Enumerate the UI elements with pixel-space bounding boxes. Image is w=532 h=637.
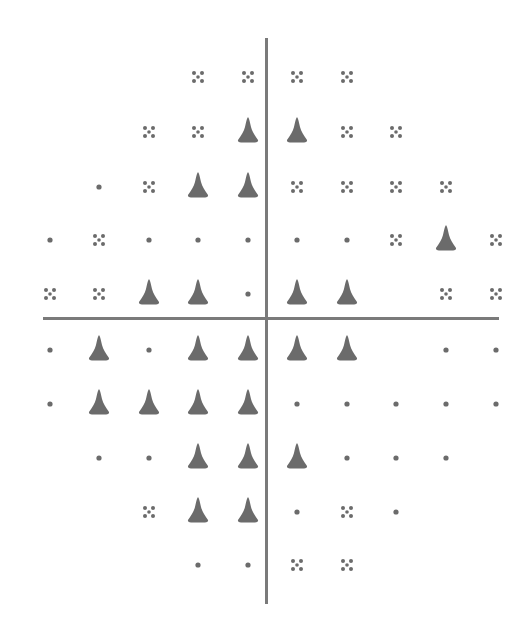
triangle-icon	[236, 334, 260, 362]
dot-icon	[137, 444, 161, 472]
triangle-icon	[236, 496, 260, 524]
vertical-meridian-axis	[265, 38, 268, 604]
cross-icon	[87, 226, 111, 254]
triangle-icon	[236, 116, 260, 144]
cross-icon	[137, 173, 161, 201]
dot-icon	[38, 226, 62, 254]
triangle-icon	[434, 224, 458, 252]
dot-icon	[186, 226, 210, 254]
dot-icon	[335, 226, 359, 254]
horizontal-meridian-axis	[43, 317, 499, 320]
dot-icon	[384, 390, 408, 418]
cross-icon	[384, 226, 408, 254]
cross-icon	[335, 118, 359, 146]
cross-icon	[137, 498, 161, 526]
triangle-icon	[236, 442, 260, 470]
cross-icon	[335, 63, 359, 91]
triangle-icon	[186, 388, 210, 416]
cross-icon	[285, 173, 309, 201]
dot-icon	[38, 390, 62, 418]
triangle-icon	[186, 442, 210, 470]
cross-icon	[335, 498, 359, 526]
triangle-icon	[137, 278, 161, 306]
cross-icon	[236, 63, 260, 91]
dot-icon	[434, 444, 458, 472]
dot-icon	[384, 444, 408, 472]
dot-icon	[236, 551, 260, 579]
cross-icon	[384, 173, 408, 201]
triangle-icon	[285, 442, 309, 470]
cross-icon	[186, 118, 210, 146]
cross-icon	[484, 226, 508, 254]
triangle-icon	[186, 278, 210, 306]
cross-icon	[285, 63, 309, 91]
dot-icon	[484, 390, 508, 418]
dot-icon	[137, 336, 161, 364]
dot-icon	[236, 226, 260, 254]
cross-icon	[484, 280, 508, 308]
cross-icon	[38, 280, 62, 308]
dot-icon	[384, 498, 408, 526]
triangle-icon	[236, 388, 260, 416]
dot-icon	[285, 498, 309, 526]
dot-icon	[484, 336, 508, 364]
dot-icon	[38, 336, 62, 364]
cross-icon	[285, 551, 309, 579]
dot-icon	[335, 390, 359, 418]
triangle-icon	[87, 334, 111, 362]
dot-icon	[87, 173, 111, 201]
triangle-icon	[285, 334, 309, 362]
triangle-icon	[236, 171, 260, 199]
cross-icon	[137, 118, 161, 146]
triangle-icon	[335, 334, 359, 362]
triangle-icon	[137, 388, 161, 416]
cross-icon	[384, 118, 408, 146]
dot-icon	[335, 444, 359, 472]
dot-icon	[285, 390, 309, 418]
dot-icon	[434, 336, 458, 364]
cross-icon	[434, 173, 458, 201]
dot-icon	[236, 280, 260, 308]
dot-icon	[285, 226, 309, 254]
triangle-icon	[186, 171, 210, 199]
triangle-icon	[186, 334, 210, 362]
dot-icon	[434, 390, 458, 418]
cross-icon	[434, 280, 458, 308]
cross-icon	[186, 63, 210, 91]
triangle-icon	[87, 388, 111, 416]
triangle-icon	[335, 278, 359, 306]
cross-icon	[335, 551, 359, 579]
triangle-icon	[285, 116, 309, 144]
visual-field-plot	[0, 0, 532, 637]
dot-icon	[137, 226, 161, 254]
dot-icon	[87, 444, 111, 472]
triangle-icon	[186, 496, 210, 524]
cross-icon	[335, 173, 359, 201]
cross-icon	[87, 280, 111, 308]
triangle-icon	[285, 278, 309, 306]
dot-icon	[186, 551, 210, 579]
